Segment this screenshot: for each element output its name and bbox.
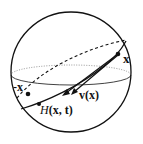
equator-back: [11, 65, 131, 75]
label-v: v(x): [79, 89, 99, 101]
point-neg-x: [26, 92, 31, 97]
equator-front: [11, 75, 131, 85]
label-H-name: H: [40, 103, 49, 117]
point-x: [116, 52, 121, 57]
label-H-args: (x, t): [49, 103, 73, 117]
vector-v-line-2: [74, 55, 118, 92]
path-H: [21, 41, 126, 109]
label-neg-x: -x: [13, 81, 23, 93]
label-H: H(x, t): [40, 104, 73, 116]
label-x: x: [123, 52, 130, 65]
sphere-diagram: [0, 0, 143, 144]
